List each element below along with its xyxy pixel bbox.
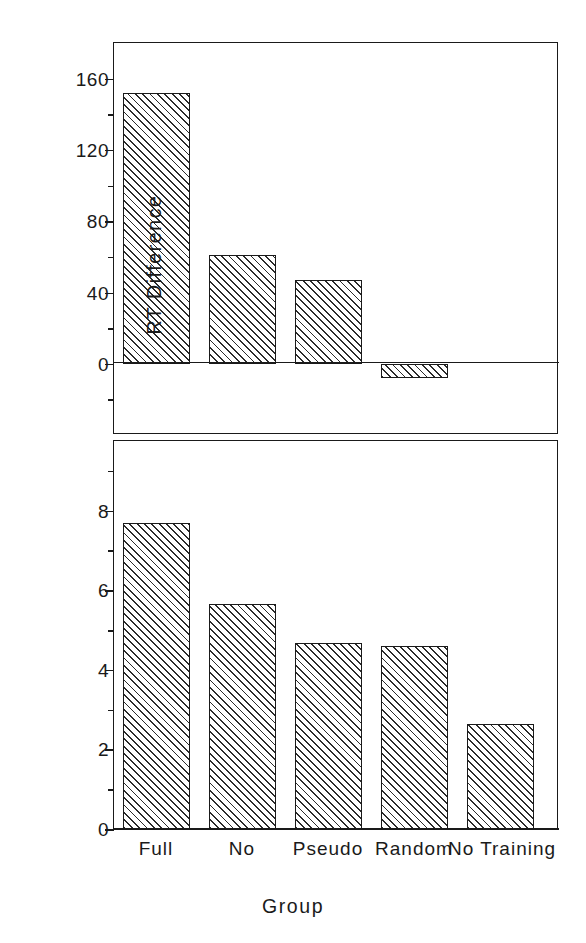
ytick-label: 8 [98,501,109,520]
bar-rt-random [381,364,448,378]
xtick-label-no: No [229,838,255,860]
ytick-minor-mark [108,789,114,791]
ytick-minor-mark [108,630,114,632]
ytick-minor-mark [108,550,114,552]
ytick-label: 80 [87,212,109,231]
ytick-minor-mark [108,328,114,330]
bar-rt-pseudo [295,280,362,364]
xtick-label-random: Random [375,838,453,860]
ytick-label: 160 [76,69,109,88]
bar-correct-full [123,523,190,830]
ytick-minor-mark [108,114,114,116]
ytick-minor-mark [108,186,114,188]
x-axis-line [113,828,559,830]
zero-reference-line [113,362,559,363]
chart-panel-rt-difference: 160 120 80 40 0 [113,42,558,434]
bar-rt-no [209,255,276,364]
ytick-label: 40 [87,283,109,302]
bar-correct-no-training [467,724,534,830]
ytick-minor-mark [108,399,114,401]
ytick-label: 0 [98,354,109,373]
chart-panel-mean-no-correct: 8 6 4 2 0 [113,440,558,830]
ytick-minor-mark [108,471,114,473]
y-axis-label-rt-difference: RT Difference [143,165,166,365]
xtick-label-full: Full [139,838,174,860]
bar-correct-random [381,646,448,829]
xtick-label-pseudo: Pseudo [293,838,363,860]
ytick-label: 120 [76,140,109,159]
xtick-label-no-training: No Training [448,838,556,860]
ytick-label: 6 [98,581,109,600]
ytick-minor-mark [108,710,114,712]
ytick-label: 0 [98,820,109,839]
x-axis-label: Group [0,895,586,918]
ytick-minor-mark [108,257,114,259]
ytick-label: 4 [98,660,109,679]
bar-correct-no [209,604,276,829]
bar-correct-pseudo [295,643,362,829]
ytick-label: 2 [98,740,109,759]
figure-canvas: 160 120 80 40 0 [0,0,586,943]
